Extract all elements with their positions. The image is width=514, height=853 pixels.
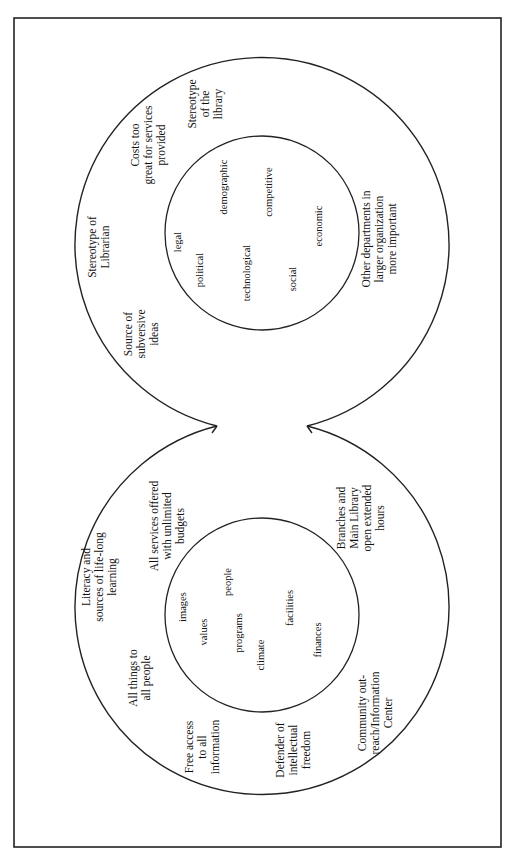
svg-text:Stereotype of: Stereotype of [86, 216, 99, 278]
factor-economic: economic [313, 205, 324, 246]
svg-text:freedom: freedom [300, 731, 312, 769]
figure-eight-diagram: images people values programs climate fa… [0, 0, 514, 853]
svg-text:great for services: great for services [142, 105, 155, 185]
svg-text:subversive: subversive [135, 309, 147, 358]
factor-social: social [287, 267, 298, 292]
left-inner-circle [165, 518, 359, 712]
label-community-outreach: Community out- reach/Information Center [356, 671, 394, 754]
factor-programs: programs [233, 613, 244, 653]
svg-text:budgets: budgets [174, 508, 187, 544]
svg-text:to all: to all [196, 735, 208, 758]
svg-text:Main Library: Main Library [348, 487, 361, 549]
svg-text:learning: learning [106, 558, 119, 596]
label-subversive-ideas: Source of subversive ideas [122, 309, 160, 358]
svg-text:Free access: Free access [183, 720, 195, 773]
diagram-stage: images people values programs climate fa… [0, 0, 514, 853]
factor-demographic: demographic [218, 159, 229, 214]
svg-text:all people: all people [140, 655, 153, 700]
svg-text:ideas: ideas [148, 322, 160, 346]
right-outer-labels: Stereotype of Librarian Costs too great … [86, 79, 399, 358]
svg-text:with unlimited: with unlimited [161, 492, 173, 560]
label-all-things: All things to all people [127, 649, 153, 707]
label-defender: Defender of intellectual freedom [274, 722, 312, 777]
svg-text:open extended: open extended [361, 484, 374, 551]
factor-people: people [222, 568, 233, 596]
factor-climate: climate [255, 639, 266, 670]
factor-technological: technological [241, 245, 252, 302]
svg-text:reach/Information: reach/Information [369, 671, 381, 754]
svg-text:provided: provided [155, 124, 168, 165]
factor-legal: legal [172, 232, 183, 252]
svg-text:Librarian: Librarian [99, 225, 111, 268]
svg-text:intellectual: intellectual [287, 724, 299, 775]
svg-text:Other departments in: Other departments in [360, 190, 373, 287]
label-other-departments: Other departments in larger organization… [360, 190, 399, 287]
svg-text:Branches and: Branches and [335, 487, 347, 550]
label-all-services: All services offered with unlimited budg… [148, 481, 187, 572]
svg-text:information: information [209, 720, 221, 775]
factor-competitive: competitive [263, 167, 274, 217]
label-free-access: Free access to all information [183, 720, 221, 775]
svg-text:All things to: All things to [127, 649, 140, 707]
label-branches: Branches and Main Library open extended … [335, 484, 386, 551]
svg-text:All services offered: All services offered [148, 481, 160, 572]
svg-text:Literacy and: Literacy and [80, 548, 93, 606]
svg-text:Stereotype: Stereotype [186, 79, 199, 128]
svg-text:larger organization: larger organization [373, 195, 386, 282]
factor-images: images [177, 592, 188, 622]
factor-facilities: facilities [284, 590, 295, 626]
svg-text:Defender of: Defender of [274, 722, 286, 777]
right-inner-circle [165, 136, 359, 330]
svg-text:sources of life-long: sources of life-long [93, 532, 106, 622]
factor-values: values [198, 619, 209, 646]
factor-finances: finances [312, 623, 323, 658]
factor-political: political [194, 253, 205, 287]
right-inner-factors: legal demographic political technologica… [172, 159, 324, 301]
svg-text:Center: Center [382, 698, 394, 729]
label-stereotype-library: Stereotype of the library [186, 79, 225, 128]
svg-text:Source of: Source of [122, 312, 134, 357]
label-costs-too-great: Costs too great for services provided [129, 105, 168, 185]
svg-text:Costs too: Costs too [129, 123, 141, 166]
svg-text:library: library [212, 88, 225, 119]
label-stereotype-librarian: Stereotype of Librarian [86, 216, 111, 278]
svg-text:of the: of the [199, 91, 211, 118]
frame-border [14, 18, 501, 847]
left-inner-factors: images people values programs climate fa… [177, 568, 323, 671]
svg-text:more important: more important [386, 203, 399, 275]
svg-text:Community out-: Community out- [356, 675, 369, 752]
svg-text:hours: hours [374, 505, 386, 531]
